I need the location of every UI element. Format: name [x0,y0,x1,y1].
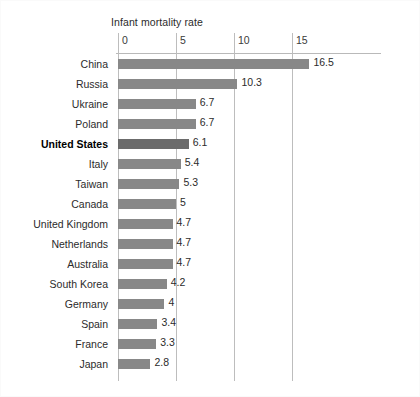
category-row: Poland [1,114,113,134]
chart-axis-title: Infant mortality rate [111,16,203,28]
category-label-united-kingdom: United Kingdom [33,218,108,230]
category-label-canada: Canada [71,198,108,210]
category-row: France [1,334,113,354]
category-label-france: France [75,338,108,350]
category-label-taiwan: Taiwan [75,178,108,190]
category-axis-labels: ChinaRussiaUkrainePolandUnited StatesIta… [1,54,113,381]
bar-value-label: 5.3 [179,176,198,188]
bar-germany [118,299,164,309]
bar-south-korea [118,279,167,289]
bar-china [118,59,309,69]
category-row: Australia [1,254,113,274]
bar-row: 5.3 [118,174,381,194]
bar-value-label: 6.7 [196,116,215,128]
bar-row: 4.7 [118,214,381,234]
bar-value-label: 4.7 [173,256,192,268]
bar-value-label: 4.2 [167,276,186,288]
x-axis-tick-labels: 051015 [118,33,381,53]
bar-russia [118,79,237,89]
bar-italy [118,159,181,169]
bar-value-label: 4.7 [173,216,192,228]
bar-ukraine [118,99,196,109]
bar-row: 3.3 [118,334,381,354]
bar-row: 6.1 [118,134,381,154]
bar-value-label: 16.5 [309,56,333,68]
x-tick-label-15: 15 [292,34,308,46]
category-row: United Kingdom [1,214,113,234]
category-row: Spain [1,314,113,334]
bar-poland [118,119,196,129]
bar-value-label: 2.8 [150,356,169,368]
bar-row: 4.7 [118,234,381,254]
category-row: South Korea [1,274,113,294]
bar-canada [118,199,176,209]
x-tick-label-0: 0 [118,34,128,46]
bar-row: 3.4 [118,314,381,334]
category-label-australia: Australia [67,258,108,270]
infant-mortality-bar-chart: Infant mortality rate 051015 16.510.36.7… [0,0,420,397]
bar-france [118,339,156,349]
plot-area: 051015 16.510.36.76.76.15.45.354.74.74.7… [118,33,381,381]
bar-row: 6.7 [118,114,381,134]
category-label-germany: Germany [65,298,108,310]
bar-japan [118,359,150,369]
category-label-netherlands: Netherlands [51,238,108,250]
bar-value-label: 5 [176,196,186,208]
bar-value-label: 10.3 [237,76,261,88]
bar-value-label: 6.1 [189,136,208,148]
category-row: China [1,54,113,74]
bar-series: 16.510.36.76.76.15.45.354.74.74.74.243.4… [118,54,381,381]
category-row: Italy [1,154,113,174]
bar-row: 4 [118,294,381,314]
category-row: Canada [1,194,113,214]
category-row: Germany [1,294,113,314]
category-label-china: China [81,58,108,70]
bar-value-label: 6.7 [196,96,215,108]
category-label-japan: Japan [79,358,108,370]
category-label-poland: Poland [75,118,108,130]
category-label-united-states: United States [41,138,108,150]
x-tick-label-10: 10 [234,34,250,46]
category-row: Japan [1,354,113,374]
bar-row: 2.8 [118,354,381,374]
bar-united-states [118,139,189,149]
bar-row: 4.2 [118,274,381,294]
bar-row: 4.7 [118,254,381,274]
bar-row: 16.5 [118,54,381,74]
bar-value-label: 4 [164,296,174,308]
bar-row: 5.4 [118,154,381,174]
category-label-russia: Russia [76,78,108,90]
bar-netherlands [118,239,173,249]
category-row: Ukraine [1,94,113,114]
category-row: United States [1,134,113,154]
bar-row: 5 [118,194,381,214]
bar-australia [118,259,173,269]
category-label-ukraine: Ukraine [72,98,108,110]
bar-value-label: 5.4 [181,156,200,168]
bar-spain [118,319,157,329]
category-label-spain: Spain [81,318,108,330]
category-row: Taiwan [1,174,113,194]
x-tick-label-5: 5 [176,34,186,46]
category-label-south-korea: South Korea [50,278,108,290]
bar-row: 10.3 [118,74,381,94]
category-label-italy: Italy [89,158,108,170]
bar-value-label: 4.7 [173,236,192,248]
bar-taiwan [118,179,179,189]
category-row: Netherlands [1,234,113,254]
category-row: Russia [1,74,113,94]
bar-row: 6.7 [118,94,381,114]
bar-value-label: 3.3 [156,336,175,348]
bar-united-kingdom [118,219,173,229]
bar-value-label: 3.4 [157,316,176,328]
